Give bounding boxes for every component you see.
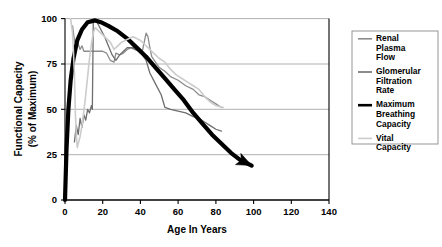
chart-figure: 0255075100 020406080100120140 Functional… [0,0,442,247]
x-tick-label-100: 100 [246,206,262,217]
legend-label-line: Glomerular [376,66,421,76]
legend-label-line: Renal [376,33,399,43]
legend-label-line: Capacity [376,119,411,129]
y-tick-label-0: 0 [52,194,57,205]
y-tick-label-100: 100 [41,13,57,24]
x-tick-label-0: 0 [62,206,67,217]
y-tick-label-50: 50 [46,104,57,115]
x-tick-label-60: 60 [173,206,184,217]
chart-svg: 0255075100 020406080100120140 Functional… [0,0,442,247]
y-tick-label-75: 75 [46,58,57,69]
x-tick-label-40: 40 [135,206,146,217]
legend-label-line: Flow [376,52,396,62]
legend-label-line: Capacity [376,142,411,152]
x-tick-label-140: 140 [321,206,337,217]
legend-label-line: Filtration [376,76,412,86]
legend-label-line: Maximum [376,99,415,109]
legend-label-line: Vital [376,133,394,143]
y-axis-title-line2: (% of Maximum) [27,71,38,148]
legend-label-line: Plasma [376,43,406,53]
x-axis-title: Age In Years [167,224,227,235]
legend: RenalPlasmaFlowGlomerularFiltrationRateM… [352,31,438,152]
legend-label-line: Rate [376,85,394,95]
x-tick-label-20: 20 [97,206,108,217]
y-axis-title-line1: Functional Capacity [13,61,24,156]
x-tick-label-120: 120 [283,206,299,217]
y-tick-label-25: 25 [46,149,57,160]
legend-label-line: Breathing [376,109,415,119]
x-tick-label-80: 80 [211,206,222,217]
